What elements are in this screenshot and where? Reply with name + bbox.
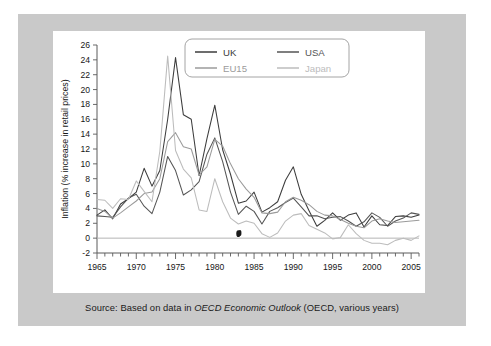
legend-label-japan: Japan — [305, 63, 331, 74]
source-caption: Source: Based on data in OECD Economic O… — [18, 302, 466, 313]
svg-text:2000: 2000 — [362, 262, 381, 272]
svg-text:1970: 1970 — [127, 262, 146, 272]
svg-text:18: 18 — [80, 99, 90, 109]
svg-text:2: 2 — [85, 218, 90, 228]
series-line-uk — [97, 58, 419, 227]
svg-text:1985: 1985 — [245, 262, 264, 272]
legend-label-uk: UK — [223, 47, 237, 58]
y-axis-tick-labels: -202468101214161820222426 — [80, 40, 90, 258]
svg-text:1995: 1995 — [323, 262, 342, 272]
svg-text:20: 20 — [80, 85, 90, 95]
series-line-japan — [97, 56, 419, 245]
chart-legend: UKUSAEU15Japan — [185, 39, 349, 77]
x-axis-tick-labels: 196519701975198019851990199520002005 — [87, 262, 420, 272]
svg-text:16: 16 — [80, 114, 90, 124]
svg-text:10: 10 — [80, 159, 90, 169]
x-axis-ticks — [97, 253, 419, 259]
data-series-group — [97, 56, 419, 245]
y-axis-ticks — [93, 45, 97, 253]
figure-panel: -202468101214161820222426 19651970197519… — [18, 14, 466, 326]
y-axis-title: Inflation (% increase in retail prices) — [60, 79, 70, 218]
svg-text:1990: 1990 — [284, 262, 303, 272]
svg-text:12: 12 — [80, 144, 90, 154]
svg-text:24: 24 — [80, 55, 90, 65]
svg-text:1980: 1980 — [205, 262, 224, 272]
caption-prefix: Source: Based on data in — [85, 302, 194, 313]
ink-smudge — [236, 230, 241, 237]
svg-text:1965: 1965 — [87, 262, 106, 272]
svg-text:1975: 1975 — [166, 262, 185, 272]
svg-text:0: 0 — [85, 233, 90, 243]
svg-text:2005: 2005 — [402, 262, 421, 272]
svg-text:22: 22 — [80, 70, 90, 80]
caption-suffix: (OECD, various years) — [301, 302, 399, 313]
annotation-group — [236, 230, 241, 237]
svg-text:26: 26 — [80, 40, 90, 50]
inflation-line-chart: -202468101214161820222426 19651970197519… — [53, 31, 425, 293]
chart-plot-area: -202468101214161820222426 19651970197519… — [53, 31, 425, 293]
svg-text:6: 6 — [85, 189, 90, 199]
legend-label-usa: USA — [305, 47, 325, 58]
svg-text:-2: -2 — [82, 248, 90, 258]
series-line-usa — [97, 138, 419, 226]
svg-text:14: 14 — [80, 129, 90, 139]
svg-text:4: 4 — [85, 203, 90, 213]
caption-italic-title: OECD Economic Outlook — [194, 302, 301, 313]
legend-label-eu15: EU15 — [223, 63, 247, 74]
svg-text:8: 8 — [85, 174, 90, 184]
